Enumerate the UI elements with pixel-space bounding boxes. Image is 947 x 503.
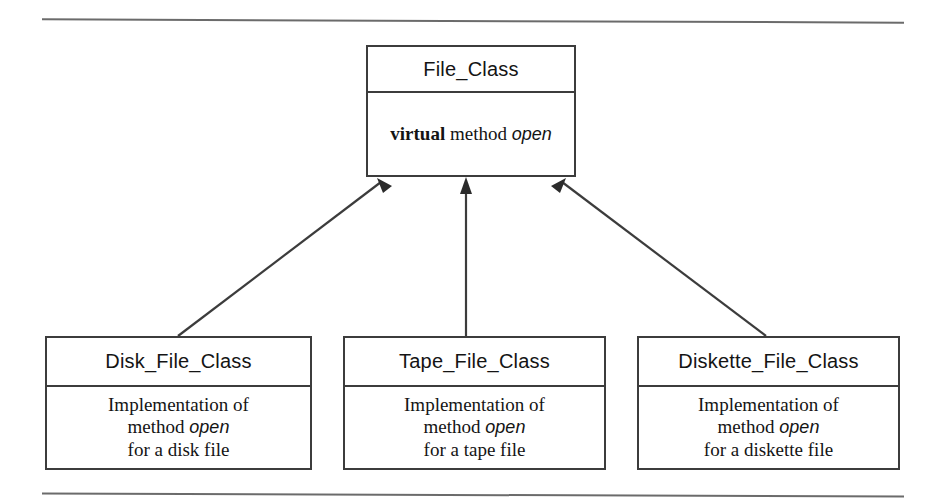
body-line-3: for a diskette file — [704, 439, 833, 461]
class-name-diskette-file-class: Diskette_File_Class — [639, 338, 898, 387]
class-body-diskette-file-class: Implementation of method open for a disk… — [639, 387, 898, 468]
connector-disk-to-file — [178, 178, 392, 336]
class-box-tape-file-class[interactable]: Tape_File_Class Implementation of method… — [343, 336, 606, 470]
class-body-disk-file-class: Implementation of method open for a disk… — [47, 387, 310, 468]
class-box-diskette-file-class[interactable]: Diskette_File_Class Implementation of me… — [637, 336, 900, 470]
member-open: open — [779, 417, 819, 437]
class-diagram-figure: File_Class virtual method open Disk_File… — [0, 0, 947, 503]
body-line-2-prefix: method — [424, 416, 481, 437]
keyword-virtual: virtual — [390, 123, 445, 144]
class-name-disk-file-class: Disk_File_Class — [47, 338, 310, 387]
body-line-1: Implementation of — [108, 394, 249, 416]
class-name-file-class: File_Class — [368, 47, 574, 93]
class-box-disk-file-class[interactable]: Disk_File_Class Implementation of method… — [45, 336, 312, 470]
body-line-1: Implementation of — [404, 394, 545, 416]
body-line-3: for a disk file — [128, 439, 230, 461]
page-rule-bottom — [42, 492, 904, 497]
class-body-tape-file-class: Implementation of method open for a tape… — [345, 387, 604, 468]
connector-tape-to-file — [460, 177, 472, 336]
body-line-2-prefix: method — [718, 416, 775, 437]
class-name-tape-file-class: Tape_File_Class — [345, 338, 604, 387]
class-body-file-class: virtual method open — [368, 93, 574, 175]
body-line-3: for a tape file — [424, 439, 526, 461]
member-open: open — [512, 124, 552, 144]
body-line-2-prefix: method — [128, 416, 185, 437]
body-line-1: Implementation of — [698, 394, 839, 416]
member-open: open — [189, 417, 229, 437]
connector-diskette-to-file — [551, 178, 766, 336]
class-box-file-class[interactable]: File_Class virtual method open — [366, 45, 576, 177]
word-method: method — [450, 123, 507, 144]
page-rule-top — [42, 18, 904, 23]
member-open: open — [485, 417, 525, 437]
